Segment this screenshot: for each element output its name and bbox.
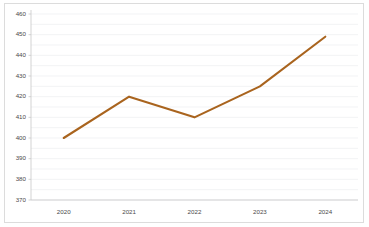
x-axis-tick-label: 2024 (318, 208, 332, 215)
y-axis-tick-label: 410 (16, 113, 27, 120)
y-axis-tick-label: 370 (16, 196, 27, 203)
y-axis-tick-labels: 460450440430420410400390380370 (16, 10, 31, 203)
y-axis-tick-label: 460 (16, 10, 27, 17)
data-series-line (64, 37, 326, 138)
gridlines (31, 14, 358, 200)
y-axis-tick-label: 430 (16, 72, 27, 79)
y-axis-tick-label: 420 (16, 92, 27, 99)
x-axis-tick-label: 2020 (57, 208, 71, 215)
y-axis-tick-label: 440 (16, 51, 27, 58)
y-axis-tick-label: 380 (16, 175, 27, 182)
line-chart-figure: 460450440430420410400390380370 202020212… (0, 0, 369, 227)
chart-canvas: 460450440430420410400390380370 202020212… (0, 0, 369, 227)
y-axis-tick-label: 400 (16, 134, 27, 141)
y-axis-tick-label: 450 (16, 30, 27, 37)
x-axis-tick-label: 2021 (122, 208, 136, 215)
x-axis-tick-label: 2023 (253, 208, 267, 215)
y-axis-tick-label: 390 (16, 154, 27, 161)
x-axis-tick-label: 2022 (188, 208, 202, 215)
x-axis-tick-labels: 20202021202220232024 (57, 208, 333, 215)
